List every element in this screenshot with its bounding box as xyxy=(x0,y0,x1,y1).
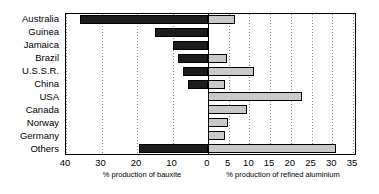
category-label-australia: Australia xyxy=(22,13,59,25)
category-label-jamaica: Jamaica xyxy=(24,39,59,51)
x-axis-tick-labels: 4030201005101520253035 xyxy=(0,157,379,170)
category-label-column: AustraliaGuineaJamaicaBrazilU.S.S.R.Chin… xyxy=(0,13,62,155)
bar-aluminium-china xyxy=(208,80,225,89)
bar-row-norway xyxy=(66,117,355,130)
tick-left-20: 20 xyxy=(131,157,142,168)
category-label-others: Others xyxy=(30,143,59,155)
bar-bauxite-jamaica xyxy=(173,41,209,50)
bar-bauxite-china xyxy=(188,80,208,89)
tick-right-30: 30 xyxy=(326,157,337,168)
category-label-usa: USA xyxy=(39,91,59,103)
category-label-china: China xyxy=(34,78,59,90)
bar-aluminium-canada xyxy=(208,105,247,114)
bar-row-brazil xyxy=(66,53,355,66)
bar-row-others xyxy=(66,143,355,155)
bar-aluminium-norway xyxy=(208,118,228,127)
bar-aluminium-usa xyxy=(208,92,302,101)
bar-bauxite-brazil xyxy=(178,54,208,63)
bar-row-usa xyxy=(66,91,355,104)
category-label-germany: Germany xyxy=(20,130,59,142)
bar-bauxite-guinea xyxy=(155,28,208,37)
bar-aluminium-others xyxy=(208,144,336,153)
tick-right-20: 20 xyxy=(285,157,296,168)
bar-row-australia xyxy=(66,14,355,27)
bar-aluminium-u-s-s-r xyxy=(208,67,254,76)
category-label-canada: Canada xyxy=(26,104,59,116)
tick-left-30: 30 xyxy=(95,157,106,168)
tick-right-35: 35 xyxy=(347,157,358,168)
bar-row-guinea xyxy=(66,27,355,40)
bar-bauxite-u-s-s-r xyxy=(183,67,208,76)
bar-bauxite-others xyxy=(139,144,208,153)
bar-row-china xyxy=(66,79,355,92)
bar-row-germany xyxy=(66,130,355,143)
tick-right-5: 5 xyxy=(225,157,230,168)
axis-caption-left: % production of bauxite xyxy=(103,170,181,180)
category-label-u-s-s-r: U.S.S.R. xyxy=(22,65,59,77)
bar-row-u-s-s-r xyxy=(66,66,355,79)
category-label-norway: Norway xyxy=(27,117,59,129)
bar-aluminium-germany xyxy=(208,131,225,140)
tick-right-10: 10 xyxy=(243,157,254,168)
tick-left-10: 10 xyxy=(166,157,177,168)
bauxite-aluminium-pyramid-chart: AustraliaGuineaJamaicaBrazilU.S.S.R.Chin… xyxy=(0,0,379,194)
plot-area xyxy=(65,13,356,155)
bar-aluminium-australia xyxy=(208,15,235,24)
category-label-guinea: Guinea xyxy=(28,26,59,38)
tick-right-15: 15 xyxy=(264,157,275,168)
bar-bauxite-australia xyxy=(80,15,208,24)
bar-row-jamaica xyxy=(66,40,355,53)
category-label-brazil: Brazil xyxy=(35,52,59,64)
tick-right-0: 0 xyxy=(204,157,209,168)
tick-right-25: 25 xyxy=(305,157,316,168)
bar-aluminium-brazil xyxy=(208,54,227,63)
axis-caption-right: % production of refined aluminium xyxy=(226,170,339,180)
tick-left-40: 40 xyxy=(60,157,71,168)
bar-row-canada xyxy=(66,104,355,117)
